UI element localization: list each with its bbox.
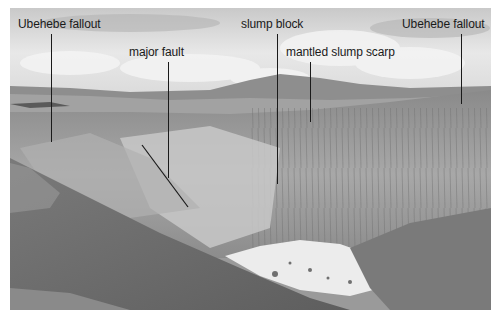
label-ubehebe-fallout-right: Ubehebe fallout xyxy=(402,17,485,31)
leader-line-mantled-slump-scarp xyxy=(310,62,311,122)
leader-line-major-fault xyxy=(168,62,169,178)
label-ubehebe-fallout-left: Ubehebe fallout xyxy=(18,17,101,31)
leader-line-ubehebe-fallout-left xyxy=(51,34,52,142)
label-major-fault: major fault xyxy=(129,45,184,59)
crater-photograph xyxy=(10,8,491,310)
label-slump-block: slump block xyxy=(241,17,303,31)
label-mantled-slump-scarp: mantled slump scarp xyxy=(286,45,395,59)
leader-line-slump-block xyxy=(277,34,278,184)
leader-line-ubehebe-fallout-right xyxy=(461,34,462,104)
crater-landscape-illustration xyxy=(10,8,491,310)
